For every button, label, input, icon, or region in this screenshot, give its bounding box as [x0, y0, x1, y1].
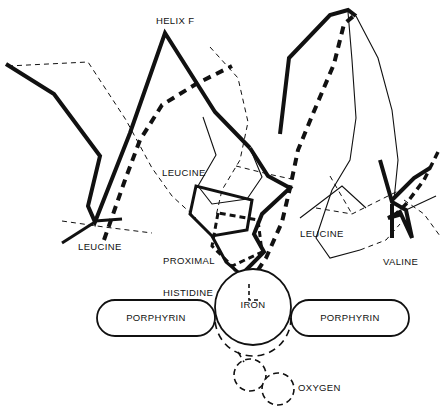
helix-f-label: HELIX F [144, 5, 194, 37]
thin-solid-chain-right-2 [356, 16, 398, 200]
leucine-right-dashed-thin-2 [330, 176, 352, 214]
leucine-right-sidechain-thin [300, 186, 366, 218]
helix-letter: F [188, 15, 194, 26]
thin-dashed-chain-left [8, 62, 196, 218]
structure-drawing [0, 0, 443, 407]
histidine-ring-dashed [212, 213, 262, 266]
iron-oxygen-bond [238, 352, 244, 362]
oxygen-label: OXYGEN [298, 383, 341, 394]
proximal-histidine-label: PROXIMAL HISTIDINE [163, 235, 215, 319]
porphyrin-right-label: PORPHYRIN [291, 313, 409, 324]
leucine-right-label: LEUCINE [300, 229, 344, 240]
thick-dashed-backbone-center [250, 14, 356, 282]
valine-backbone-solid [380, 160, 412, 238]
oxygen-atom-1 [234, 359, 266, 391]
histidine-ring-solid [190, 186, 252, 236]
leucine-left-sidechain-stub [95, 219, 122, 221]
leucine-left-sidechain-solid [62, 222, 95, 243]
valine-label: VALINE [383, 257, 418, 268]
leucine-center-label: LEUCINE [162, 168, 206, 179]
porphyrin-left-label: PORPHYRIN [97, 313, 215, 324]
diagram-canvas: HELIX F LEUCINE LEUCINE PROXIMAL HISTIDI… [0, 0, 443, 407]
helix-label-text: HELIX [156, 15, 188, 26]
thick-solid-backbone-left [6, 33, 250, 222]
proximal-histidine-line2: HISTIDINE [163, 288, 215, 299]
leucine-left-label: LEUCINE [78, 242, 122, 253]
thin-dashed-chain-left-branch [62, 221, 152, 233]
oxygen-atom-2 [262, 373, 294, 405]
proximal-histidine-line1: PROXIMAL [163, 256, 215, 267]
iron-label: IRON [228, 300, 278, 311]
thin-solid-chain-right [332, 12, 356, 190]
